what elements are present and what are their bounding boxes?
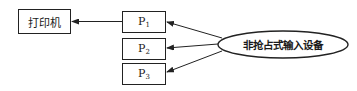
device-label: 非抢占式输入设备 (218, 31, 348, 58)
process-label: P1 (138, 15, 150, 29)
process-label: P3 (138, 67, 150, 81)
printer-label: 打印机 (28, 14, 61, 30)
process-label: P2 (138, 42, 150, 56)
process-node-p1: P1 (122, 11, 166, 33)
arrow-device-to-p2 (167, 44, 218, 48)
arrow-device-to-p1 (167, 22, 222, 38)
process-node-p3: P3 (122, 63, 166, 85)
arrow-device-to-p3 (167, 51, 222, 72)
process-node-p2: P2 (122, 38, 166, 60)
printer-node: 打印机 (18, 9, 71, 34)
